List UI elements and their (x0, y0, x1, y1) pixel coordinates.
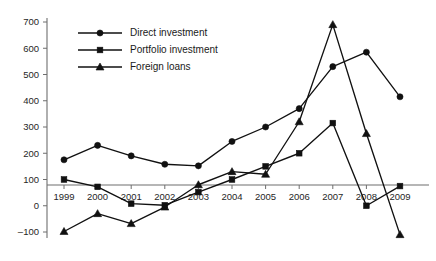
data-point-triangle (396, 231, 404, 238)
x-tick-label: 2008 (356, 191, 377, 202)
data-point-square (364, 203, 370, 209)
x-axis: 1999200020012002200320042005200620072008… (47, 185, 429, 202)
data-series-group (60, 21, 404, 238)
x-tick-label: 2009 (389, 191, 410, 202)
legend-label: Portfolio investment (130, 44, 218, 55)
y-tick-label: 300 (23, 121, 39, 132)
legend-label: Foreign loans (130, 61, 191, 72)
data-point-circle (397, 94, 403, 100)
x-tick-label: 2007 (322, 191, 343, 202)
data-point-square (128, 201, 134, 207)
data-point-circle (296, 106, 302, 112)
data-point-circle (128, 153, 134, 159)
data-point-triangle (329, 21, 337, 28)
data-point-square (296, 150, 302, 156)
data-point-square (229, 177, 235, 183)
data-point-circle (162, 161, 168, 167)
legend-item-portfolio-investment[interactable]: Portfolio investment (78, 44, 218, 55)
y-tick-label: 100 (23, 174, 39, 185)
y-tick-label: 600 (23, 43, 39, 54)
legend-item-direct-investment[interactable]: Direct investment (78, 27, 207, 38)
data-point-square (263, 164, 269, 170)
series-path (64, 52, 400, 166)
data-point-square (397, 183, 403, 189)
chart-container: –1000100200300400500600700 1999200020012… (0, 0, 436, 261)
data-point-square (330, 120, 336, 126)
series-path (64, 25, 400, 235)
y-tick-label: 200 (23, 148, 39, 159)
data-point-square (97, 47, 103, 53)
data-point-circle (263, 124, 269, 130)
data-point-triangle (362, 130, 370, 137)
data-point-square (196, 189, 202, 195)
x-tick-label: 2000 (87, 191, 108, 202)
y-tick-label: 700 (23, 16, 39, 27)
data-point-triangle (94, 210, 102, 217)
y-axis: –1000100200300400500600700 (18, 16, 47, 238)
data-point-square (61, 177, 67, 183)
x-tick-label: 2006 (289, 191, 310, 202)
legend-item-foreign-loans[interactable]: Foreign loans (78, 61, 191, 72)
y-tick-label: 0 (34, 200, 39, 211)
data-point-circle (195, 163, 201, 169)
data-point-circle (363, 49, 369, 55)
y-tick-label: 400 (23, 95, 39, 106)
x-tick-label: 2005 (255, 191, 276, 202)
x-tick-label: 1999 (53, 191, 74, 202)
series-foreign-loans (60, 21, 404, 238)
x-tick-label: 2002 (154, 191, 175, 202)
data-point-circle (61, 157, 67, 163)
data-point-circle (229, 138, 235, 144)
line-chart: –1000100200300400500600700 1999200020012… (0, 0, 436, 261)
y-tick-label: –100 (18, 226, 39, 237)
y-tick-label: 500 (23, 69, 39, 80)
data-point-triangle (295, 118, 303, 125)
data-point-square (95, 184, 101, 190)
chart-legend: Direct investmentPortfolio investmentFor… (78, 27, 218, 72)
legend-label: Direct investment (130, 27, 207, 38)
data-point-circle (330, 64, 336, 70)
x-tick-label: 2004 (221, 191, 242, 202)
data-point-triangle (228, 168, 236, 175)
data-point-circle (95, 142, 101, 148)
data-point-circle (97, 30, 103, 36)
data-point-triangle (60, 227, 68, 234)
